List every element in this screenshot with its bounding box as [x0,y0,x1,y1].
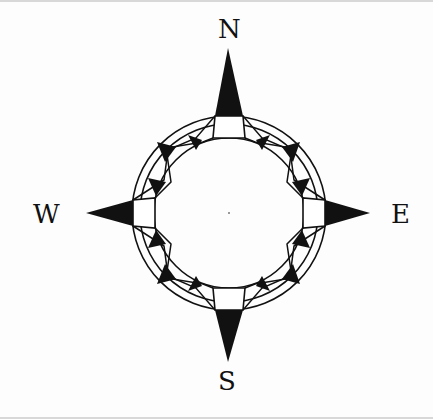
north-point-icon [213,48,245,138]
triangle-icon [157,264,176,284]
west-label: W [33,201,60,227]
triangle-icon [256,276,270,291]
cardinal-points [86,48,370,362]
triangle-icon [157,142,176,162]
east-point-icon [303,198,370,228]
north-label: N [218,16,241,42]
compass-rose-graphic [0,0,433,419]
triangle-icon [282,264,300,284]
triangle-icon [188,135,202,150]
east-label: E [391,201,410,227]
triangle-icon [282,142,300,162]
triangle-icon [256,135,270,150]
south-label: S [218,368,236,394]
center-dot [228,212,230,214]
south-point-icon [213,288,245,362]
compass-diagram: N W E S [0,0,433,419]
west-point-icon [86,198,155,228]
triangle-icon [188,276,202,291]
